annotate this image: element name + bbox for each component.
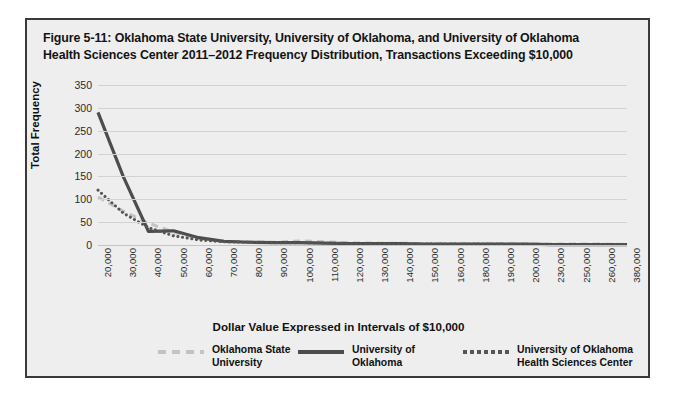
x-tick-label: 230,000 xyxy=(555,248,566,283)
legend-item[interactable]: Oklahoma State University xyxy=(158,344,291,369)
y-tick-label: 50 xyxy=(80,216,92,228)
legend-label: Oklahoma State University xyxy=(212,344,291,369)
y-tick-label: 350 xyxy=(74,79,92,91)
x-tick-label: 30,000 xyxy=(127,248,138,277)
legend-label: University of Oklahoma Health Sciences C… xyxy=(517,344,633,369)
x-tick-label: 20,000 xyxy=(102,248,113,277)
plot-area: 050100150200250300350 xyxy=(98,85,627,245)
x-tick-label: 200,000 xyxy=(530,248,541,283)
x-tick-label: 380,000 xyxy=(631,248,642,283)
x-tick-label: 190,000 xyxy=(505,248,516,283)
x-tick-label: 70,000 xyxy=(228,248,239,277)
x-tick-label: 60,000 xyxy=(203,248,214,277)
x-tick-label: 250,000 xyxy=(581,248,592,283)
chart-panel: Total Frequency 050100150200250300350 20… xyxy=(35,72,642,368)
y-axis-title: Total Frequency xyxy=(29,81,41,169)
figure-title-line-2: Health Sciences Center 2011–2012 Frequen… xyxy=(43,47,635,64)
y-tick-label: 100 xyxy=(74,193,92,205)
x-tick-label: 110,000 xyxy=(329,248,340,282)
x-tick-label: 120,000 xyxy=(354,248,365,283)
x-tick-label: 90,000 xyxy=(278,248,289,277)
y-tick-label: 300 xyxy=(74,102,92,114)
legend-swatch-dotted-icon xyxy=(463,350,509,354)
x-tick-label: 160,000 xyxy=(455,248,466,283)
y-tick-label: 250 xyxy=(74,125,92,137)
gridline-250 xyxy=(98,131,627,132)
gridline-0 xyxy=(98,245,627,246)
legend-item[interactable]: University of Oklahoma xyxy=(298,344,415,369)
gridline-350 xyxy=(98,85,627,86)
x-tick-label: 130,000 xyxy=(379,248,390,283)
y-tick-label: 0 xyxy=(86,239,92,251)
y-tick-label: 200 xyxy=(74,148,92,160)
gridlines: 050100150200250300350 xyxy=(98,85,627,245)
x-tick-label: 40,000 xyxy=(152,248,163,277)
gridline-300 xyxy=(98,108,627,109)
gridline-150 xyxy=(98,176,627,177)
chart-legend: Oklahoma State UniversityUniversity of O… xyxy=(43,344,650,384)
legend-swatch-dashed-icon xyxy=(158,350,204,354)
x-tick-label: 260,000 xyxy=(606,248,617,283)
gridline-50 xyxy=(98,222,627,223)
figure-title: Figure 5-11: Oklahoma State University, … xyxy=(43,30,635,64)
gridline-200 xyxy=(98,154,627,155)
figure-frame: Figure 5-11: Oklahoma State University, … xyxy=(25,18,650,378)
x-tick-label: 80,000 xyxy=(253,248,264,277)
y-tick-label: 150 xyxy=(74,170,92,182)
legend-label: University of Oklahoma xyxy=(352,344,415,369)
x-axis-title: Dollar Value Expressed in Intervals of $… xyxy=(35,320,642,333)
x-tick-label: 180,000 xyxy=(480,248,491,283)
x-tick-label: 50,000 xyxy=(178,248,189,277)
x-tick-label: 100,000 xyxy=(304,248,315,283)
figure-title-line-1: Figure 5-11: Oklahoma State University, … xyxy=(43,30,635,47)
x-axis-ticks: 20,00030,00040,00050,00060,00070,00080,0… xyxy=(98,248,627,318)
x-tick-label: 140,000 xyxy=(404,248,415,283)
gridline-100 xyxy=(98,199,627,200)
legend-swatch-solid-icon xyxy=(298,350,344,354)
x-tick-label: 150,000 xyxy=(429,248,440,283)
legend-item[interactable]: University of Oklahoma Health Sciences C… xyxy=(463,344,633,369)
